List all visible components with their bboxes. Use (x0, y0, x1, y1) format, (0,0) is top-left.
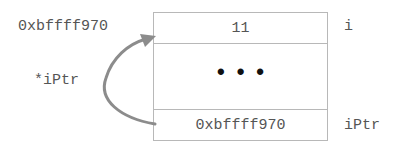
pointer-arrow-icon (0, 0, 412, 154)
